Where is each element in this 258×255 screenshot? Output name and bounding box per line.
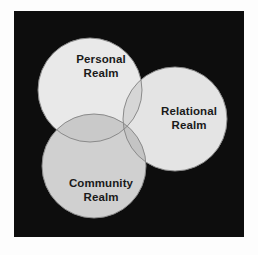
- venn-diagram-panel: Personal Realm Relational Realm Communit…: [14, 11, 244, 237]
- figure-root: Personal Realm Relational Realm Communit…: [0, 0, 258, 255]
- venn-diagram-graphic: [14, 11, 244, 237]
